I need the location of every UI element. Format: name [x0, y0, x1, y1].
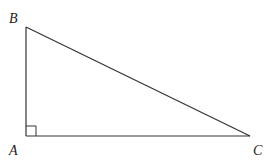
vertex-label-a: A	[9, 144, 18, 158]
right-angle-marker	[26, 126, 36, 136]
vertex-label-c: C	[253, 144, 262, 158]
side-bc	[26, 27, 250, 136]
triangle-diagram	[0, 0, 276, 164]
vertex-label-b: B	[9, 12, 18, 26]
